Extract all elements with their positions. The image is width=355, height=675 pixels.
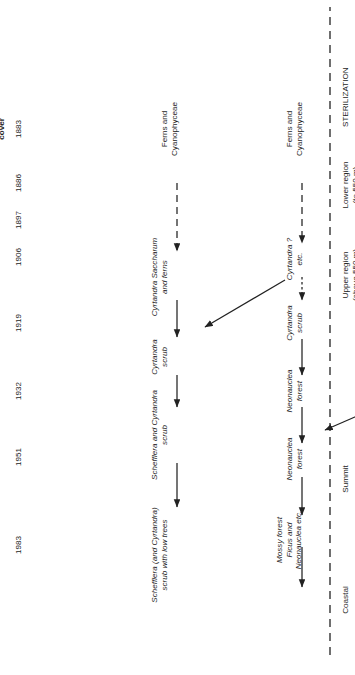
- zone-coastal-label: Coastal: [341, 586, 351, 613]
- year-1886: 1886: [14, 174, 24, 192]
- year-1983: 1983: [14, 536, 24, 554]
- zone-lower-region-label: Lower region (to 550 m): [341, 162, 355, 209]
- node-summit-schefflera-low-trees: Schefflera (and Cyrtandra) scrub with lo…: [150, 507, 169, 602]
- node-upper-neonauclea-forest-1932: Neonauclea forest: [285, 369, 304, 412]
- sterilization-label: STERILIZATION: [341, 67, 351, 127]
- year-1883: 1883: [14, 120, 24, 138]
- year-1919: 1919: [14, 314, 24, 332]
- year-1906: 1906: [14, 248, 24, 266]
- general-vegetation-cover-title: General main vegetation cover: [0, 103, 7, 154]
- succession-diagram: 1883 1886 1897 1906 1919 1932 1951 1983 …: [0, 0, 355, 675]
- node-summit-schefflera-cyrtandra-scrub: Schefflera and Cyrtandra scrub: [150, 390, 169, 480]
- year-1932: 1932: [14, 382, 24, 400]
- node-upper-mossy-forest: Mossy forest Ficus and Neonauclea etc.: [275, 511, 304, 570]
- zone-summit-label: Summit: [341, 465, 351, 492]
- node-summit-cyrtandra-saccharum-ferns: Cyrtandra Saccharum and ferns: [150, 238, 169, 317]
- node-summit-ferns-cyanophyceae: Ferns and Cyanophyceae: [160, 102, 179, 156]
- node-upper-cyrtandra-scrub: Cyrtandra scrub: [285, 305, 304, 341]
- node-upper-cyrtandra-etc: Cyrtandra ? etc.: [285, 238, 304, 280]
- year-1951: 1951: [14, 448, 24, 466]
- arrow-upper-to-summit: [205, 280, 285, 327]
- node-summit-cyrtandra-scrub: Cyrtandra scrub: [150, 339, 169, 375]
- zone-upper-region-label: Upper region (above 550 m): [341, 249, 355, 301]
- node-upper-neonauclea-forest-1951: Neonauclea forest: [285, 437, 304, 480]
- node-upper-ferns-cyanophyceae: Ferns and Cyanophyceae: [285, 102, 304, 156]
- year-1897: 1897: [14, 211, 24, 229]
